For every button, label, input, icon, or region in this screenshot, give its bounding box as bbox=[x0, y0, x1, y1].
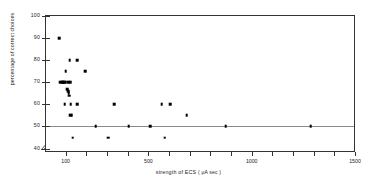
data-point bbox=[164, 136, 167, 139]
data-point bbox=[76, 103, 79, 106]
y-axis-tick-label: 60 bbox=[34, 100, 40, 106]
x-axis-tick bbox=[231, 152, 232, 156]
chance-reference-line bbox=[46, 126, 354, 127]
data-point bbox=[169, 103, 172, 106]
x-axis-tick bbox=[86, 152, 87, 156]
x-axis-tick bbox=[314, 152, 315, 156]
x-axis-tick bbox=[169, 152, 170, 156]
data-point bbox=[84, 70, 87, 73]
x-axis-tick bbox=[190, 152, 191, 156]
x-axis-tick-labels: 10050010001500 bbox=[0, 158, 377, 166]
y-axis-tick-label: 100 bbox=[31, 12, 40, 18]
y-axis-tick-label: 70 bbox=[34, 78, 40, 84]
data-point bbox=[225, 125, 228, 128]
y-axis-tick-labels: 100908070605040 bbox=[22, 15, 40, 152]
x-axis-tick bbox=[334, 152, 335, 156]
scatter-plot-figure: 100908070605040 percentage of correct ch… bbox=[0, 0, 377, 188]
y-axis-tick-inner bbox=[46, 149, 50, 150]
x-axis-tick bbox=[272, 152, 273, 156]
y-axis-tick-label: 80 bbox=[34, 56, 40, 62]
data-point bbox=[64, 70, 67, 73]
data-point bbox=[69, 81, 72, 84]
x-axis-tick-label: 500 bbox=[144, 158, 153, 164]
data-point bbox=[72, 136, 75, 139]
data-point bbox=[58, 37, 61, 40]
data-point bbox=[185, 114, 188, 117]
data-point bbox=[76, 59, 79, 62]
plot-area bbox=[45, 15, 355, 152]
x-axis-title-main: strength of ECS bbox=[156, 169, 196, 175]
data-point bbox=[160, 103, 163, 106]
x-axis-tick-label: 1000 bbox=[246, 158, 258, 164]
data-point bbox=[309, 125, 312, 128]
x-axis-tick bbox=[293, 152, 294, 156]
y-axis-tick-inner bbox=[46, 82, 50, 83]
y-axis-tick-label: 50 bbox=[34, 122, 40, 128]
x-axis-tick bbox=[355, 152, 356, 156]
y-axis-tick-inner bbox=[46, 60, 50, 61]
data-point bbox=[94, 125, 97, 128]
x-axis-tick bbox=[107, 152, 108, 156]
y-axis-tick-label: 90 bbox=[34, 34, 40, 40]
data-point bbox=[70, 103, 73, 106]
y-axis-title: percentage of correct choices bbox=[9, 0, 15, 109]
y-axis-tick-inner bbox=[46, 16, 50, 17]
data-point bbox=[68, 94, 71, 97]
data-point bbox=[70, 114, 73, 117]
x-axis-tick bbox=[128, 152, 129, 156]
x-axis-title-unit: ( µA sec ) bbox=[198, 169, 221, 175]
data-point bbox=[107, 136, 110, 139]
data-point bbox=[127, 125, 130, 128]
x-axis-tick-label: 100 bbox=[61, 158, 70, 164]
x-axis-tick bbox=[210, 152, 211, 156]
x-axis-tick-label: 1500 bbox=[349, 158, 361, 164]
x-axis-tick bbox=[66, 152, 67, 156]
y-axis-tick-inner bbox=[46, 38, 50, 39]
data-point bbox=[63, 103, 66, 106]
x-axis-tick bbox=[252, 152, 253, 156]
x-axis-title: strength of ECS ( µA sec ) bbox=[0, 169, 377, 175]
x-axis-tick bbox=[148, 152, 149, 156]
y-axis-tick-inner bbox=[46, 104, 50, 105]
data-point bbox=[149, 125, 152, 128]
y-axis-tick-inner bbox=[46, 126, 50, 127]
data-point bbox=[68, 59, 71, 62]
data-point bbox=[113, 103, 116, 106]
